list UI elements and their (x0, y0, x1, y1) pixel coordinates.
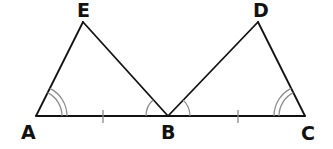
segment-ae (36, 22, 83, 116)
segment-bd (168, 22, 258, 116)
label-b: B (161, 121, 175, 143)
label-a: A (21, 121, 36, 143)
label-e: E (77, 0, 90, 21)
label-d: D (253, 0, 269, 21)
angle-eba-arc (146, 100, 153, 116)
label-c: C (301, 122, 315, 144)
geometry-diagram: E D A B C (0, 0, 333, 149)
segment-dc (258, 22, 305, 116)
angle-dbc-arc (183, 100, 190, 116)
segment-eb (83, 22, 168, 116)
